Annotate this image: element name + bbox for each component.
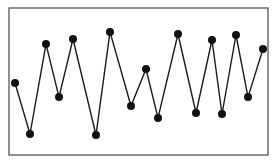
data-point (127, 102, 135, 110)
data-point (174, 30, 182, 38)
data-point (208, 36, 216, 44)
data-point (259, 45, 267, 53)
chart-canvas (0, 0, 278, 166)
data-point (26, 130, 34, 138)
data-point (11, 79, 19, 87)
data-point (244, 93, 252, 101)
data-point (42, 40, 50, 48)
data-point (154, 114, 162, 122)
data-point (142, 65, 150, 73)
data-point (92, 131, 100, 139)
data-point (218, 110, 226, 118)
data-point (69, 35, 77, 43)
data-point (192, 109, 200, 117)
data-markers (11, 28, 267, 139)
data-line (15, 32, 263, 135)
data-point (106, 28, 114, 36)
plot-frame (9, 8, 268, 155)
data-point (55, 93, 63, 101)
data-point (232, 31, 240, 39)
line-chart (0, 0, 278, 166)
